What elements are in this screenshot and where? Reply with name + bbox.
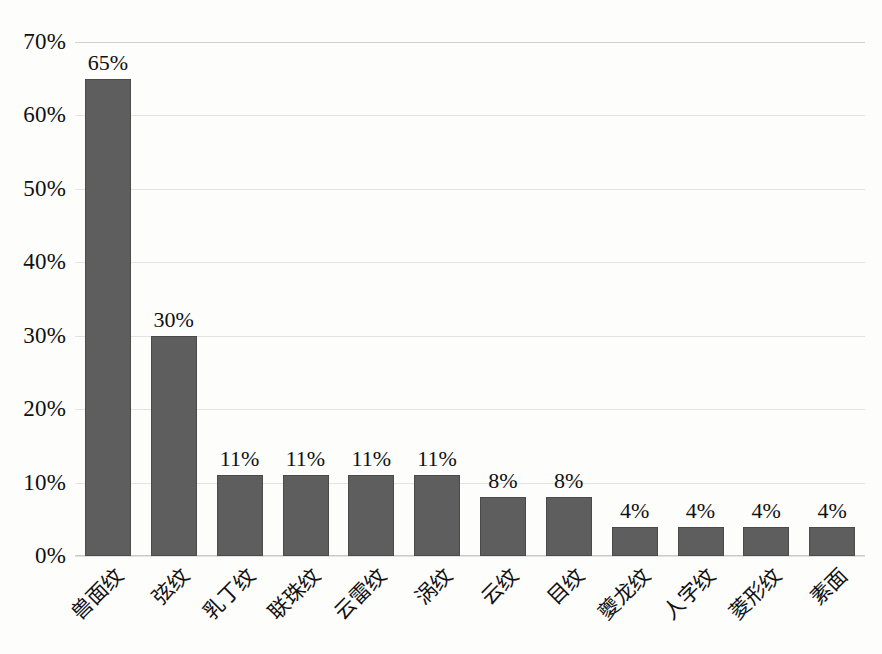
x-axis-label-slot: 人字纹 xyxy=(668,560,734,654)
x-axis-label-slot: 菱形纹 xyxy=(733,560,799,654)
bar-slot: 4% xyxy=(799,42,865,556)
bar[interactable] xyxy=(480,497,526,556)
y-axis-tick-label: 30% xyxy=(0,324,66,347)
x-axis-tick-label: 乳丁纹 xyxy=(199,564,259,624)
bar-slot: 30% xyxy=(141,42,207,556)
bar-value-label: 4% xyxy=(733,500,799,522)
x-axis-tick-label: 夔龙纹 xyxy=(594,564,654,624)
y-axis-tick-label: 70% xyxy=(0,30,66,53)
bar-value-label: 11% xyxy=(273,448,339,470)
bar-value-label: 4% xyxy=(799,500,865,522)
y-axis-tick-label: 10% xyxy=(0,471,66,494)
bar[interactable] xyxy=(151,336,197,556)
bar-slot: 4% xyxy=(602,42,668,556)
bar-slot: 11% xyxy=(273,42,339,556)
bar[interactable] xyxy=(217,475,263,556)
bar-slot: 11% xyxy=(338,42,404,556)
x-axis-label-slot: 素面 xyxy=(799,560,865,654)
bar-value-label: 30% xyxy=(141,309,207,331)
bar-slot: 65% xyxy=(75,42,141,556)
bar-slot: 8% xyxy=(470,42,536,556)
bar-value-label: 4% xyxy=(668,500,734,522)
bar[interactable] xyxy=(283,475,329,556)
x-axis-tick-label: 弦纹 xyxy=(148,564,193,609)
x-axis-tick-label: 目纹 xyxy=(543,564,588,609)
x-axis-tick-label: 人字纹 xyxy=(660,564,720,624)
x-axis-label-slot: 云雷纹 xyxy=(338,560,404,654)
x-axis-label-slot: 联珠纹 xyxy=(273,560,339,654)
bar-value-label: 11% xyxy=(404,448,470,470)
bar-value-label: 8% xyxy=(536,470,602,492)
bar[interactable] xyxy=(678,527,724,556)
x-axis-label-slot: 兽面纹 xyxy=(75,560,141,654)
bar-value-label: 8% xyxy=(470,470,536,492)
bar-value-label: 4% xyxy=(602,500,668,522)
x-axis-label-slot: 云纹 xyxy=(470,560,536,654)
x-axis-tick-label: 兽面纹 xyxy=(67,564,127,624)
bar[interactable] xyxy=(612,527,658,556)
x-axis-tick-label: 涡纹 xyxy=(411,564,456,609)
bar[interactable] xyxy=(85,79,131,556)
bar[interactable] xyxy=(546,497,592,556)
bar[interactable] xyxy=(743,527,789,556)
bar-chart: 0%10%20%30%40%50%60%70% 65%30%11%11%11%1… xyxy=(0,0,882,654)
bar-slot: 11% xyxy=(207,42,273,556)
x-axis-label-slot: 目纹 xyxy=(536,560,602,654)
x-axis-label-slot: 涡纹 xyxy=(404,560,470,654)
y-axis-tick-label: 60% xyxy=(0,103,66,126)
bar-slot: 11% xyxy=(404,42,470,556)
bar-slot: 4% xyxy=(733,42,799,556)
x-axis-tick-label: 素面 xyxy=(806,564,851,609)
bar[interactable] xyxy=(809,527,855,556)
x-axis-tick-label: 云雷纹 xyxy=(331,564,391,624)
y-axis-tick-label: 20% xyxy=(0,397,66,420)
x-axis-tick-label: 菱形纹 xyxy=(726,564,786,624)
bar-slot: 8% xyxy=(536,42,602,556)
bars-layer: 65%30%11%11%11%11%8%8%4%4%4%4% xyxy=(75,42,865,556)
x-axis-tick-label: 云纹 xyxy=(477,564,522,609)
bar-value-label: 11% xyxy=(207,448,273,470)
x-axis-tick-label: 联珠纹 xyxy=(265,564,325,624)
y-axis-tick-label: 40% xyxy=(0,250,66,273)
bar-value-label: 11% xyxy=(338,448,404,470)
y-axis-tick-label: 0% xyxy=(0,544,66,567)
bar-value-label: 65% xyxy=(75,52,141,74)
bar[interactable] xyxy=(414,475,460,556)
bar[interactable] xyxy=(348,475,394,556)
x-axis-label-slot: 弦纹 xyxy=(141,560,207,654)
gridline xyxy=(75,556,865,557)
y-axis-tick-label: 50% xyxy=(0,177,66,200)
bar-slot: 4% xyxy=(668,42,734,556)
x-axis-labels: 兽面纹弦纹乳丁纹联珠纹云雷纹涡纹云纹目纹夔龙纹人字纹菱形纹素面 xyxy=(75,560,865,654)
